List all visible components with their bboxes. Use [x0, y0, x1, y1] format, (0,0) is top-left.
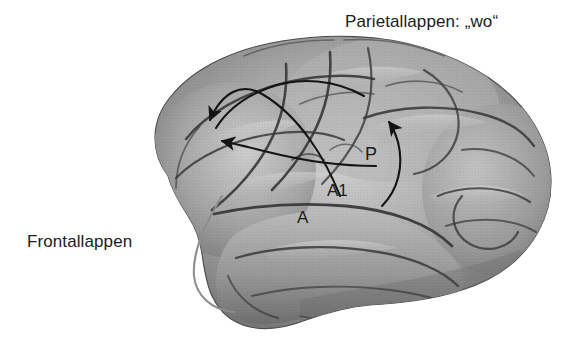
- label-area-a: A: [297, 209, 308, 226]
- brain-diagram-figure: Parietallappen: „wo“ Frontallappen A A1 …: [0, 0, 582, 343]
- label-area-a1: A1: [327, 182, 348, 199]
- brain-body: [0, 0, 582, 343]
- right-edge-shadow: [0, 0, 112, 343]
- label-area-p: P: [365, 145, 377, 163]
- label-parietal-lobe: Parietallappen: „wo“: [345, 13, 498, 30]
- brain-illustration: [0, 0, 582, 343]
- halftone-texture: [0, 0, 582, 343]
- label-frontal-lobe: Frontallappen: [27, 233, 132, 250]
